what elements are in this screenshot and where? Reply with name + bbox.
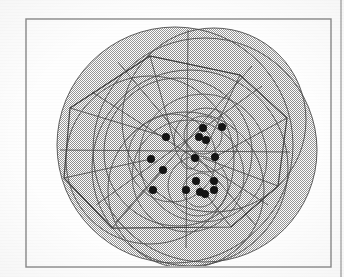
data-point-p1	[199, 124, 207, 132]
data-point-p16	[210, 186, 218, 194]
data-point-p6	[147, 155, 155, 163]
data-point-p5	[162, 133, 170, 141]
data-point-p4	[202, 136, 210, 144]
data-point-p7	[191, 154, 199, 162]
data-point-p9	[159, 166, 167, 174]
data-point-p15	[201, 190, 209, 198]
data-point-p8	[211, 153, 219, 161]
figure-canvas	[0, 0, 344, 277]
data-point-p11	[192, 177, 200, 185]
data-point-p3	[195, 133, 203, 141]
data-point-p2	[218, 123, 226, 131]
data-point-p12	[210, 177, 218, 185]
data-point-p13	[182, 186, 190, 194]
data-point-p10	[149, 186, 157, 194]
scanned-page	[0, 0, 344, 277]
